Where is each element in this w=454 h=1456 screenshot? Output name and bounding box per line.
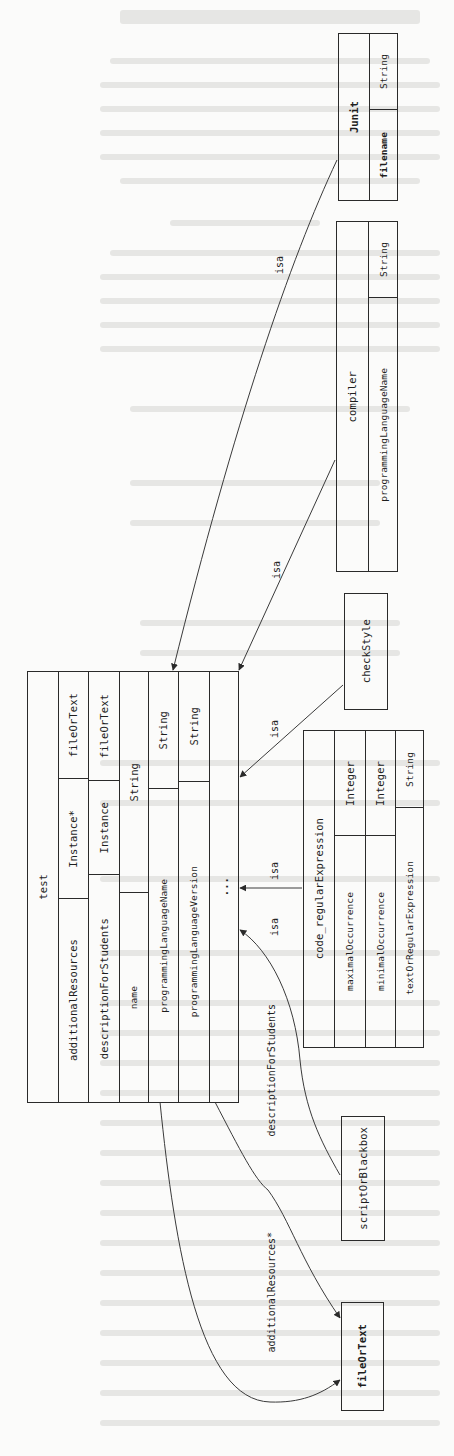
edge-label-isa-coderegex: isa <box>270 862 280 880</box>
class-diagram: isa isa isa isa isa descriptionForStuden… <box>0 0 454 1456</box>
class-title-file-or-text: fileOrText <box>357 1324 368 1388</box>
class-title-checkstyle: checkStyle <box>361 619 372 683</box>
attr-type: String <box>379 54 389 89</box>
class-title-junit: Junit <box>349 101 360 133</box>
edge-junit-isa <box>173 160 337 670</box>
attr-type: Instance* <box>68 810 79 868</box>
edge-label-isa-script: isa <box>270 918 280 936</box>
class-box-test[interactable]: test fileOrText Instance* additionalReso… <box>27 671 239 1103</box>
attr-type: Instance <box>99 802 110 853</box>
attr-name: programmingLanguageName <box>379 368 389 502</box>
attr-type: String <box>189 707 200 746</box>
edge-label-additional-resources: additionalResources* <box>267 1232 277 1352</box>
class-title-compiler: compiler <box>347 371 358 422</box>
class-box-compiler[interactable]: compiler String programmingLanguageName <box>336 221 398 572</box>
attr-range: fileOrText <box>68 693 79 757</box>
attr-type: String <box>405 752 415 787</box>
edge-label-isa-junit: isa <box>275 256 285 274</box>
attr-name: filename <box>379 132 389 179</box>
attr-name: name <box>129 986 139 1009</box>
attr-name: descriptionForStudents <box>99 918 110 1059</box>
attr-name: textOrRegularExpression <box>405 861 415 995</box>
class-box-code-regular-expression[interactable]: code_regularExpression Integer maximalOc… <box>303 730 424 1048</box>
class-title-code-regular-expression: code_regularExpression <box>314 818 325 959</box>
edge-label-isa-compiler: isa <box>272 561 282 579</box>
attr-type: String <box>379 242 389 277</box>
edge-label-isa-checkstyle: isa <box>270 720 280 738</box>
edge-label-description-for-students: descriptionForStudents <box>267 1004 277 1136</box>
attr-type: String <box>129 763 140 802</box>
attr-type: Integer <box>375 761 386 806</box>
class-title-test: test <box>38 874 49 900</box>
attr-ellipsis: ... <box>219 877 230 896</box>
class-box-script-or-blackbox[interactable]: scriptOrBlackbox <box>341 1116 385 1241</box>
attr-type: String <box>158 711 169 750</box>
class-box-checkstyle[interactable]: checkStyle <box>344 593 388 710</box>
class-box-junit[interactable]: Junit String filename <box>338 33 398 201</box>
edge-compiler-isa <box>239 460 335 670</box>
attr-name: maximalOccurrence <box>345 892 355 991</box>
attr-name: programmingLanguageName <box>159 879 169 1013</box>
class-box-file-or-text[interactable]: fileOrText <box>341 1302 384 1411</box>
attr-name: additionalResources <box>68 939 79 1061</box>
edge-additional-resources <box>160 1102 340 1402</box>
class-title-script-or-blackbox: scriptOrBlackbox <box>358 1127 369 1230</box>
attr-type: Integer <box>345 761 356 806</box>
attr-name: programmingLanguageVersion <box>189 866 199 1017</box>
attr-range: fileOrText <box>99 694 110 758</box>
attr-name: minimalOccurrence <box>376 892 386 991</box>
edge-description-for-students <box>215 1102 340 1318</box>
